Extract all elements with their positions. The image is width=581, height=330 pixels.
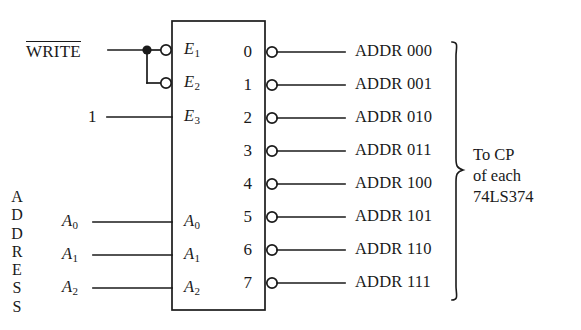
pin-a0-subscript: 0 bbox=[195, 219, 201, 231]
pin-a1-text: A bbox=[184, 244, 194, 263]
constant-one-label: 1 bbox=[88, 108, 97, 125]
output-label-addr-000: ADDR 000 bbox=[355, 43, 432, 60]
output-label-addr-001: ADDR 001 bbox=[355, 76, 432, 93]
junction-dot bbox=[142, 45, 151, 54]
pin-label-a0: A0 bbox=[184, 213, 200, 231]
grouping-brace bbox=[452, 42, 463, 300]
address-input-a2-text: A bbox=[62, 277, 72, 296]
pin-e1-text: E bbox=[184, 39, 194, 58]
address-input-a0-subscript: 0 bbox=[73, 219, 79, 231]
output-label-addr-101: ADDR 101 bbox=[355, 208, 432, 225]
output-label-addr-011: ADDR 011 bbox=[355, 142, 432, 159]
address-letter-7: S bbox=[8, 298, 26, 316]
annotation-line-1: To CP bbox=[473, 144, 514, 165]
bubble-out-4 bbox=[267, 179, 277, 189]
address-bus-label: A D D R E S S bbox=[8, 188, 26, 316]
annotation-line-2: of each bbox=[473, 165, 521, 186]
address-input-a1-subscript: 1 bbox=[73, 252, 79, 264]
pin-e3-text: E bbox=[184, 106, 194, 125]
pin-e1-subscript: 1 bbox=[195, 47, 201, 59]
pin-label-a1: A1 bbox=[184, 246, 200, 264]
output-label-addr-010: ADDR 010 bbox=[355, 109, 432, 126]
address-input-a0-text: A bbox=[62, 211, 72, 230]
bubble-out-1 bbox=[267, 80, 277, 90]
annotation-line-3: 74LS374 bbox=[473, 186, 534, 207]
pin-a2-subscript: 2 bbox=[195, 285, 201, 297]
output-pin-number-2: 2 bbox=[236, 109, 252, 126]
bubble-out-7 bbox=[267, 278, 277, 288]
output-label-addr-111: ADDR 111 bbox=[355, 274, 431, 291]
decoder-schematic: WRITE 1 A D D R E S S A0 A1 A2 E1 E2 E3 … bbox=[0, 0, 581, 330]
address-input-label-a0: A0 bbox=[62, 213, 78, 231]
address-letter-4: R bbox=[8, 243, 26, 261]
output-label-addr-110: ADDR 110 bbox=[355, 241, 432, 258]
pin-a1-subscript: 1 bbox=[195, 252, 201, 264]
address-input-a2-subscript: 2 bbox=[73, 285, 79, 297]
address-input-a1-text: A bbox=[62, 244, 72, 263]
pin-e3-subscript: 3 bbox=[195, 114, 201, 126]
address-letter-2: D bbox=[8, 206, 26, 224]
address-letter-1: A bbox=[8, 188, 26, 206]
output-pin-number-5: 5 bbox=[236, 208, 252, 225]
write-signal-label: WRITE bbox=[26, 41, 81, 60]
pin-e2-subscript: 2 bbox=[195, 80, 201, 92]
bubble-out-2 bbox=[267, 113, 277, 123]
address-letter-3: D bbox=[8, 225, 26, 243]
pin-label-e3: E3 bbox=[184, 108, 200, 126]
output-label-addr-100: ADDR 100 bbox=[355, 175, 432, 192]
output-pin-number-7: 7 bbox=[236, 274, 252, 291]
address-input-label-a1: A1 bbox=[62, 246, 78, 264]
pin-a0-text: A bbox=[184, 211, 194, 230]
output-pin-number-6: 6 bbox=[236, 241, 252, 258]
bubble-out-0 bbox=[267, 47, 277, 57]
output-pin-number-1: 1 bbox=[236, 76, 252, 93]
bubble-out-6 bbox=[267, 245, 277, 255]
output-pin-number-3: 3 bbox=[236, 142, 252, 159]
decoder-body bbox=[172, 21, 265, 310]
output-pin-number-0: 0 bbox=[236, 43, 252, 60]
address-letter-6: S bbox=[8, 279, 26, 297]
pin-e2-text: E bbox=[184, 72, 194, 91]
pin-a2-text: A bbox=[184, 277, 194, 296]
address-input-label-a2: A2 bbox=[62, 279, 78, 297]
pin-label-a2: A2 bbox=[184, 279, 200, 297]
pin-label-e2: E2 bbox=[184, 74, 200, 92]
pin-label-e1: E1 bbox=[184, 41, 200, 59]
write-signal-text: WRITE bbox=[26, 41, 81, 60]
bubble-out-5 bbox=[267, 212, 277, 222]
bubble-e1 bbox=[161, 45, 171, 55]
bubble-out-3 bbox=[267, 146, 277, 156]
output-pin-number-4: 4 bbox=[236, 175, 252, 192]
bubble-e2 bbox=[161, 78, 171, 88]
address-letter-5: E bbox=[8, 261, 26, 279]
